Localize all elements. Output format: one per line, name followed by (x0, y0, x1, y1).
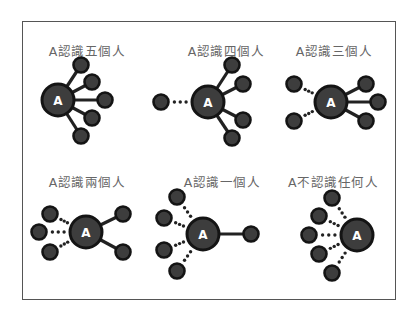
stranger-dot (189, 215, 192, 218)
stranger-node (154, 95, 169, 110)
stranger-dot (186, 210, 189, 213)
stranger-dot (63, 242, 66, 245)
stranger-dot (182, 224, 185, 227)
stranger-dot (327, 233, 330, 236)
stranger-dot (174, 244, 177, 247)
network-diagram: AAAAAA (0, 0, 419, 319)
stranger-dot (311, 110, 314, 113)
person-a-label: A (352, 229, 362, 243)
stranger-dot (189, 250, 192, 253)
stranger-dot (336, 224, 339, 227)
stranger-node (312, 247, 327, 262)
stranger-dot (173, 100, 176, 103)
panel-1: A (42, 58, 113, 144)
person-a-label: A (198, 228, 208, 242)
stranger-node (170, 264, 185, 279)
stranger-node (43, 245, 58, 260)
stranger-dot (310, 91, 313, 94)
stranger-node (157, 243, 172, 258)
stranger-dot (303, 88, 306, 91)
person-a-label: A (203, 96, 213, 110)
stranger-dot (59, 218, 62, 221)
known-person-node (225, 58, 240, 73)
stranger-dot (338, 260, 341, 263)
stranger-dot (329, 247, 332, 250)
stranger-node (302, 228, 317, 243)
known-person-node (236, 77, 251, 92)
known-person-node (359, 114, 374, 129)
known-person-node (116, 207, 131, 222)
stranger-dot (333, 233, 336, 236)
stranger-node (157, 211, 172, 226)
stranger-node (287, 114, 302, 129)
stranger-node (287, 77, 302, 92)
stranger-dot (179, 100, 182, 103)
person-a-label: A (326, 96, 336, 110)
stranger-dot (340, 211, 343, 214)
stranger-dot (307, 112, 310, 115)
stranger-dot (338, 207, 341, 210)
stranger-dot (343, 215, 346, 218)
known-person-node (359, 77, 374, 92)
stranger-dot (340, 256, 343, 259)
stranger-node (312, 209, 327, 224)
stranger-node (325, 266, 340, 281)
stranger-dot (174, 221, 177, 224)
stranger-dot (186, 254, 189, 257)
stranger-dot (183, 206, 186, 209)
stranger-dot (66, 240, 69, 243)
known-person-node (225, 131, 240, 146)
stranger-dot (332, 222, 335, 225)
known-person-node (244, 227, 259, 242)
known-person-node (74, 129, 89, 144)
known-person-node (85, 111, 100, 126)
panel-3: A (287, 77, 386, 129)
stranger-dot (62, 219, 65, 222)
stranger-dot (184, 100, 187, 103)
known-person-node (236, 113, 251, 128)
stranger-node (170, 190, 185, 205)
stranger-node (32, 225, 47, 240)
stranger-dot (62, 230, 65, 233)
known-person-node (85, 75, 100, 90)
known-person-node (74, 58, 89, 73)
person-a-label: A (53, 94, 63, 108)
stranger-dot (182, 240, 185, 243)
stranger-dot (57, 230, 60, 233)
known-person-node (116, 245, 131, 260)
panel-6: A (302, 191, 374, 281)
panel-2: A (154, 58, 251, 146)
stranger-dot (183, 259, 186, 262)
stranger-dot (307, 89, 310, 92)
stranger-dot (51, 230, 54, 233)
stranger-dot (321, 233, 324, 236)
stranger-dot (336, 243, 339, 246)
stranger-dot (329, 220, 332, 223)
stranger-dot (178, 223, 181, 226)
panel-4: A (32, 207, 131, 260)
stranger-dot (332, 245, 335, 248)
stranger-dot (343, 251, 346, 254)
known-person-node (98, 93, 113, 108)
stranger-dot (178, 242, 181, 245)
person-a-label: A (81, 226, 91, 240)
stranger-dot (59, 244, 62, 247)
known-person-node (371, 95, 386, 110)
stranger-node (325, 191, 340, 206)
stranger-node (43, 207, 58, 222)
stranger-dot (303, 114, 306, 117)
panel-5: A (157, 190, 259, 279)
stranger-dot (66, 221, 69, 224)
